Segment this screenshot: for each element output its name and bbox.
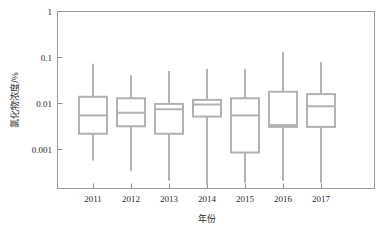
x-tick-label-2: 2013 bbox=[160, 194, 179, 204]
y-tick-label-0: 1 bbox=[48, 7, 53, 17]
x-tick-label-6: 2017 bbox=[312, 194, 331, 204]
x-tick-label-5: 2016 bbox=[274, 194, 293, 204]
boxplot-2015 bbox=[231, 69, 259, 183]
chart-container: 1 0.1 0.01 0.001 氯化物浓度/% 2011 2012 2013 … bbox=[0, 0, 384, 234]
box-series bbox=[79, 52, 335, 185]
box-iqr bbox=[231, 98, 259, 152]
boxplot-2012 bbox=[117, 75, 145, 171]
box-iqr bbox=[193, 100, 221, 117]
x-tick-label-4: 2015 bbox=[236, 194, 255, 204]
box-iqr bbox=[307, 94, 335, 127]
y-axis-ticks bbox=[58, 12, 63, 150]
x-axis-tick-labels: 2011 2012 2013 2014 2015 2016 2017 bbox=[84, 194, 330, 204]
x-tick-label-3: 2014 bbox=[198, 194, 217, 204]
y-axis-title: 氯化物浓度/% bbox=[9, 72, 20, 128]
y-axis-tick-labels: 1 0.1 0.01 0.001 bbox=[32, 7, 52, 155]
y-tick-label-3: 0.001 bbox=[32, 145, 52, 155]
y-tick-label-2: 0.01 bbox=[36, 99, 52, 109]
boxplot-2014 bbox=[193, 69, 221, 185]
boxplot-2011 bbox=[79, 64, 107, 161]
box-iqr bbox=[269, 92, 297, 127]
x-tick-label-0: 2011 bbox=[84, 194, 102, 204]
boxplot-2013 bbox=[155, 71, 183, 181]
boxplot-2017 bbox=[307, 62, 335, 182]
boxplot-svg: 1 0.1 0.01 0.001 氯化物浓度/% 2011 2012 2013 … bbox=[0, 0, 384, 234]
x-tick-label-1: 2012 bbox=[122, 194, 140, 204]
x-axis-title: 年份 bbox=[198, 213, 216, 224]
y-tick-label-1: 0.1 bbox=[41, 53, 52, 63]
boxplot-2016 bbox=[269, 52, 297, 180]
